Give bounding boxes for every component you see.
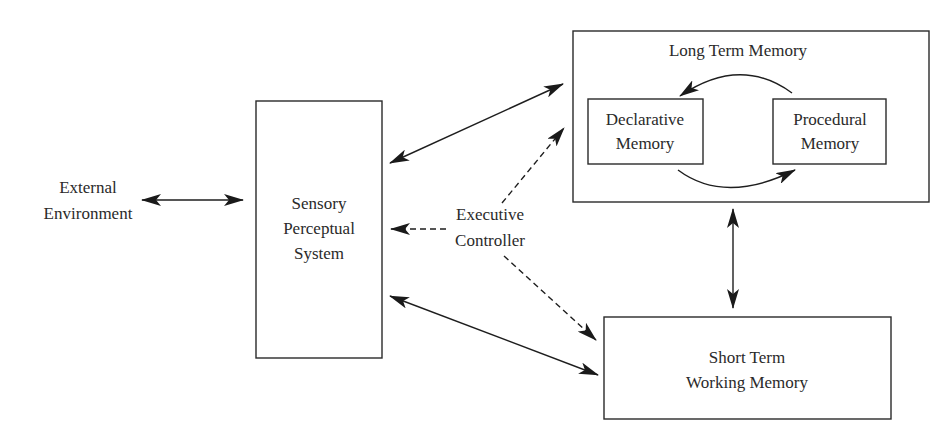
external-environment-label-line1: External	[59, 178, 117, 197]
long-term-memory-title: Long Term Memory	[669, 41, 808, 60]
executive-to-ltm-arrow	[502, 128, 564, 203]
sensory-label-line3: System	[294, 244, 344, 263]
declarative-label-line2: Memory	[616, 134, 675, 153]
declarative-memory-node: Declarative Memory	[588, 99, 703, 164]
short-term-working-memory-box	[604, 317, 891, 419]
stwm-label-line2: Working Memory	[686, 373, 808, 392]
procedural-memory-node: Procedural Memory	[773, 99, 886, 164]
sensory-perceptual-system-node: Sensory Perceptual System	[256, 101, 382, 358]
declarative-memory-box	[588, 99, 703, 164]
procedural-label-line2: Memory	[801, 134, 860, 153]
external-environment-node: External Environment	[44, 178, 133, 223]
executive-controller-node: Executive Controller	[455, 205, 525, 250]
external-environment-label-line2: Environment	[44, 204, 133, 223]
stwm-label-line1: Short Term	[709, 348, 785, 367]
sensory-label-line2: Perceptual	[283, 219, 355, 238]
sensory-ltm-arrow	[390, 84, 563, 163]
memory-model-diagram: External Environment Sensory Perceptual …	[0, 0, 932, 447]
procedural-label-line1: Procedural	[793, 110, 867, 129]
procedural-memory-box	[773, 99, 886, 164]
executive-label-line1: Executive	[456, 205, 524, 224]
declarative-label-line1: Declarative	[606, 110, 684, 129]
long-term-memory-node: Long Term Memory Declarative Memory Proc…	[573, 31, 929, 202]
executive-label-line2: Controller	[455, 231, 525, 250]
executive-to-stwm-arrow	[504, 256, 596, 340]
sensory-label-line1: Sensory	[292, 194, 347, 213]
sensory-stwm-arrow	[390, 296, 598, 375]
short-term-working-memory-node: Short Term Working Memory	[604, 317, 891, 419]
